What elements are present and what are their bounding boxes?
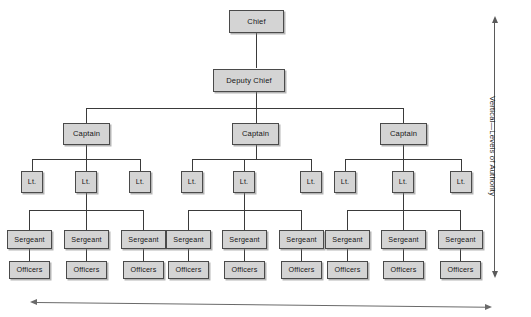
node-officers-6[interactable]: Officers (281, 261, 322, 279)
node-lt-1[interactable]: Lt. (21, 171, 43, 193)
vertical-axis-arrow-up-icon (492, 16, 498, 23)
connector-captain3-down (403, 145, 404, 160)
node-officers-8[interactable]: Officers (383, 261, 424, 279)
connector-sgt-officer-3 (143, 249, 144, 261)
connector-lt-drop-7 (345, 159, 346, 171)
connector-captain-drop-2 (256, 108, 257, 123)
node-lt-9[interactable]: Lt. (450, 171, 472, 193)
connector-lt-bus-2 (192, 159, 311, 160)
connector-lt-drop-5 (244, 159, 245, 171)
vertical-axis-arrow-down-icon (492, 271, 498, 278)
node-sergeant-2[interactable]: Sergeant (64, 230, 109, 249)
connector-lt-drop-9 (461, 159, 462, 171)
connector-lt2-down (86, 193, 87, 211)
connector-sgt-drop-4 (188, 210, 189, 230)
node-sergeant-8[interactable]: Sergeant (381, 230, 426, 249)
node-captain-3[interactable]: Captain (380, 123, 427, 145)
connector-sgt-officer-2 (86, 249, 87, 261)
node-officers-4[interactable]: Officers (168, 261, 209, 279)
connector-deputy-down (256, 92, 257, 109)
connector-lt-drop-8 (403, 159, 404, 171)
node-officers-5[interactable]: Officers (224, 261, 265, 279)
connector-lt-drop-4 (192, 159, 193, 171)
node-lt-5[interactable]: Lt. (233, 171, 255, 193)
node-officers-2[interactable]: Officers (66, 261, 107, 279)
node-lt-3[interactable]: Lt. (129, 171, 151, 193)
node-sergeant-9[interactable]: Sergeant (438, 230, 483, 249)
connector-chief-deputy (256, 33, 257, 68)
node-sergeant-6[interactable]: Sergeant (279, 230, 324, 249)
horizontal-axis-arrow-left-icon (30, 299, 37, 305)
connector-sgt-drop-9 (460, 210, 461, 230)
node-sergeant-4[interactable]: Sergeant (166, 230, 211, 249)
horizontal-axis-line (36, 302, 488, 308)
node-officers-9[interactable]: Officers (440, 261, 481, 279)
connector-lt-drop-2 (86, 159, 87, 171)
connector-sgt-officer-1 (29, 249, 30, 261)
connector-sgt-drop-7 (347, 210, 348, 230)
node-captain-2[interactable]: Captain (232, 123, 279, 145)
node-deputy-chief[interactable]: Deputy Chief (213, 69, 285, 92)
node-lt-8[interactable]: Lt. (392, 171, 414, 193)
connector-captain-drop-1 (86, 108, 87, 123)
connector-sgt-drop-6 (301, 210, 302, 230)
connector-sgt-officer-9 (460, 249, 461, 261)
node-sergeant-5[interactable]: Sergeant (222, 230, 267, 249)
connector-sgt-officer-8 (403, 249, 404, 261)
connector-sgt-drop-5 (244, 210, 245, 230)
connector-sgt-officer-4 (188, 249, 189, 261)
connector-sgt-drop-8 (403, 210, 404, 230)
node-lt-7[interactable]: Lt. (334, 171, 356, 193)
connector-sgt-officer-6 (301, 249, 302, 261)
connector-sgt-officer-5 (244, 249, 245, 261)
vertical-axis-label: Vertical—Levels of Authority (488, 96, 497, 216)
connector-sgt-drop-2 (86, 210, 87, 230)
node-lt-6[interactable]: Lt. (300, 171, 322, 193)
node-officers-1[interactable]: Officers (9, 261, 50, 279)
connector-lt5-down (244, 193, 245, 211)
connector-lt8-down (403, 193, 404, 211)
connector-captain2-down (256, 145, 257, 160)
node-officers-7[interactable]: Officers (327, 261, 368, 279)
connector-lt-drop-6 (311, 159, 312, 171)
node-sergeant-1[interactable]: Sergeant (7, 230, 52, 249)
node-lt-2[interactable]: Lt. (75, 171, 97, 193)
node-officers-3[interactable]: Officers (123, 261, 164, 279)
connector-sgt-drop-3 (143, 210, 144, 230)
horizontal-axis-arrow-right-icon (485, 304, 492, 310)
node-chief[interactable]: Chief (229, 10, 284, 33)
connector-captain1-down (86, 145, 87, 160)
node-captain-1[interactable]: Captain (63, 123, 110, 145)
node-sergeant-3[interactable]: Sergeant (121, 230, 166, 249)
org-chart-canvas: Chief Deputy Chief Captain Captain Capta… (0, 0, 531, 317)
node-sergeant-7[interactable]: Sergeant (325, 230, 370, 249)
connector-lt-drop-1 (32, 159, 33, 171)
connector-captain-drop-3 (403, 108, 404, 123)
connector-sgt-officer-7 (347, 249, 348, 261)
connector-sgt-drop-1 (29, 210, 30, 230)
node-lt-4[interactable]: Lt. (181, 171, 203, 193)
connector-captain-bus (86, 108, 404, 109)
connector-lt-drop-3 (140, 159, 141, 171)
